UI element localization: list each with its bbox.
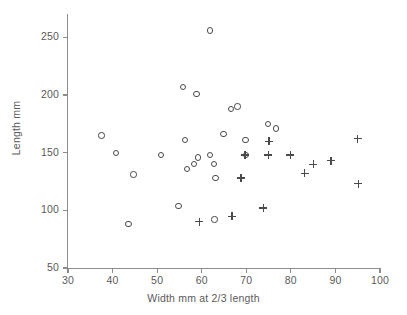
x-axis-tick [246, 269, 247, 273]
data-point-circle [182, 137, 188, 143]
data-point-circle [180, 84, 186, 90]
data-point-circle [158, 152, 164, 158]
x-axis-tick [67, 269, 68, 273]
y-axis-tick [63, 267, 67, 268]
data-point-circle [195, 154, 201, 160]
y-axis-tick-label: 50 [29, 261, 59, 273]
data-point-circle [191, 161, 197, 167]
data-point-circle [265, 121, 271, 127]
x-axis-tick-label: 30 [53, 274, 83, 286]
x-axis-tick-label: 90 [320, 274, 350, 286]
x-axis-tick [157, 269, 158, 273]
x-axis-title: Width mm at 2/3 length [0, 292, 407, 304]
x-axis-tick [335, 269, 336, 273]
data-point-plus [228, 212, 236, 220]
x-axis-tick-label: 60 [187, 274, 217, 286]
data-point-plus [309, 160, 317, 168]
data-point-plus [327, 157, 335, 165]
data-point-circle [130, 171, 136, 177]
data-point-circle [193, 91, 199, 97]
data-point-circle [273, 125, 279, 131]
y-axis-line [67, 14, 68, 269]
scatter-plot-figure: Length mm 501001502002503040506070809010… [0, 0, 407, 315]
data-point-circle [212, 175, 218, 181]
y-axis-tick [63, 37, 67, 38]
data-point-circle [220, 131, 226, 137]
data-point-circle [113, 150, 119, 156]
x-axis-tick-label: 100 [365, 274, 395, 286]
data-point-circle [242, 137, 248, 143]
data-point-circle [184, 166, 190, 172]
y-axis-tick [63, 94, 67, 95]
data-point-plus [354, 180, 362, 188]
data-point-circle [175, 203, 181, 209]
y-axis-title: Length mm [10, 73, 22, 183]
x-axis-tick-label: 50 [142, 274, 172, 286]
data-point-circle [211, 216, 217, 222]
y-axis-tick-label: 150 [29, 146, 59, 158]
data-point-circle [234, 103, 240, 109]
data-point-circle [207, 27, 213, 33]
data-point-plus [241, 151, 249, 159]
data-point-plus [259, 204, 267, 212]
data-point-circle [207, 152, 213, 158]
x-axis-tick [379, 269, 380, 273]
data-point-plus [195, 218, 203, 226]
data-point-plus [265, 137, 273, 145]
x-axis-tick [201, 269, 202, 273]
data-point-circle [228, 106, 234, 112]
data-point-plus [286, 151, 294, 159]
x-axis-tick-label: 70 [231, 274, 261, 286]
data-point-plus [301, 169, 309, 177]
data-point-plus [237, 174, 245, 182]
data-point-circle [98, 132, 104, 138]
y-axis-tick [63, 152, 67, 153]
data-point-circle [211, 161, 217, 167]
y-axis-tick-label: 100 [29, 203, 59, 215]
data-point-plus [264, 151, 272, 159]
data-point-circle [125, 221, 131, 227]
data-point-plus [354, 135, 362, 143]
x-axis-tick-label: 80 [276, 274, 306, 286]
y-axis-tick-label: 200 [29, 88, 59, 100]
y-axis-tick-label: 250 [29, 30, 59, 42]
x-axis-tick-label: 40 [98, 274, 128, 286]
data-point-circle [243, 152, 249, 158]
x-axis-tick [112, 269, 113, 273]
x-axis-tick [290, 269, 291, 273]
y-axis-tick [63, 210, 67, 211]
